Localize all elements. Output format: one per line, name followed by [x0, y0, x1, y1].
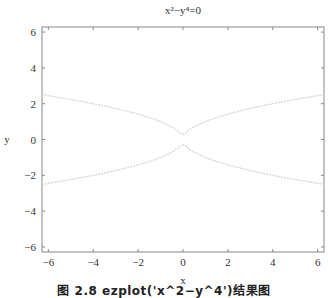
- axis-ticks: −6−4−20246−6−4−20246: [24, 26, 324, 268]
- y-tick-label: 6: [31, 26, 37, 38]
- x-tick-label: 2: [225, 256, 231, 268]
- curve-line: [42, 145, 324, 185]
- plot-curves: [42, 95, 324, 185]
- y-tick-label: 4: [31, 62, 37, 74]
- y-tick-label: −6: [24, 241, 36, 253]
- x-tick-label: 6: [315, 256, 321, 268]
- x-tick-label: 0: [180, 256, 186, 268]
- y-tick-label: 2: [31, 98, 37, 110]
- plot-frame: [42, 27, 324, 252]
- x-tick-label: 4: [270, 256, 276, 268]
- curve-line: [42, 95, 324, 135]
- y-tick-label: −4: [24, 205, 36, 217]
- x-tick-label: −6: [42, 256, 54, 268]
- chart-title: x²−y⁴=0: [165, 4, 202, 16]
- x-tick-label: −4: [87, 256, 99, 268]
- y-tick-label: −2: [24, 169, 36, 181]
- y-axis-label: y: [4, 133, 10, 145]
- y-tick-label: 0: [31, 134, 37, 146]
- figure-caption: 图 2.8 ezplot('x^2−y^4')结果图: [0, 281, 328, 298]
- chart: x²−y⁴=0 −6−4−20246−6−4−20246 x y: [0, 0, 328, 298]
- x-tick-label: −2: [132, 256, 144, 268]
